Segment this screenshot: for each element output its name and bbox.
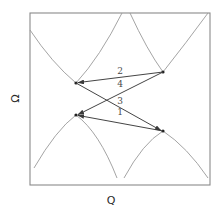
potential-energy-diagram: 2 4 3 1 — [0, 0, 218, 214]
arrow-label-2: 2 — [117, 66, 123, 76]
figure-root: 2 4 3 1 Ω Q — [0, 0, 218, 214]
arrow-label-3: 3 — [117, 96, 123, 106]
arrow-label-1: 1 — [117, 107, 123, 117]
arrow-label-4: 4 — [117, 79, 123, 89]
y-axis-label: Ω — [9, 86, 22, 112]
x-axis-label: Q — [100, 194, 122, 207]
vertex-lower-left — [74, 113, 77, 116]
